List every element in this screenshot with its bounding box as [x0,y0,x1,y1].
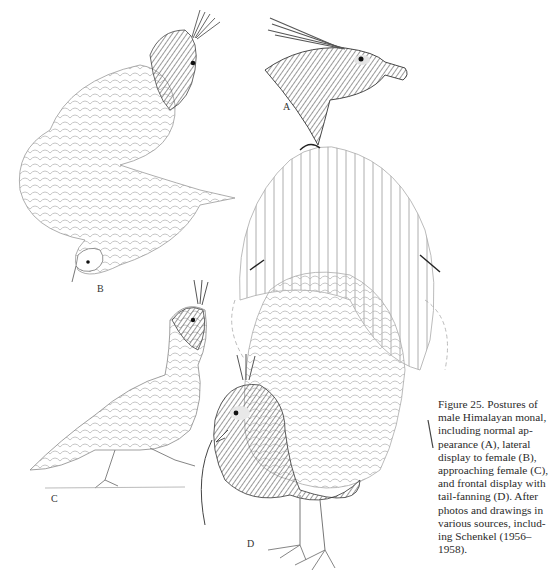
bird-b-drawing [19,10,235,282]
caption-line: tail-fanning (D). After [438,490,556,503]
panel-label-d: D [247,538,254,549]
caption-line: 1958). [438,543,556,556]
caption-line: various sources, includ- [438,517,556,530]
caption-line: and frontal display with [438,477,556,490]
panel-label-b: B [97,283,104,294]
figure-caption: Figure 25. Postures of male Himalayan mo… [438,398,556,556]
head-a-drawing [265,18,407,145]
panel-label-c: C [51,493,58,504]
panel-label-a: A [283,101,290,112]
caption-line: Figure 25. Postures of [438,398,556,411]
bird-c-drawing [30,280,208,488]
caption-line: approaching female (C), [438,464,556,477]
caption-line: male Himalayan monal, [438,411,556,424]
caption-line: pearance (A), lateral [438,438,556,451]
caption-line: display to female (B), [438,451,556,464]
caption-line: photos and drawings in [438,504,556,517]
figure-illustration: A B C D Figure 25. Postures of male Hima… [0,0,556,579]
caption-line: ing Schenkel (1956– [438,530,556,543]
bird-d-drawing [201,144,447,570]
caption-line: including normal ap- [438,424,556,437]
